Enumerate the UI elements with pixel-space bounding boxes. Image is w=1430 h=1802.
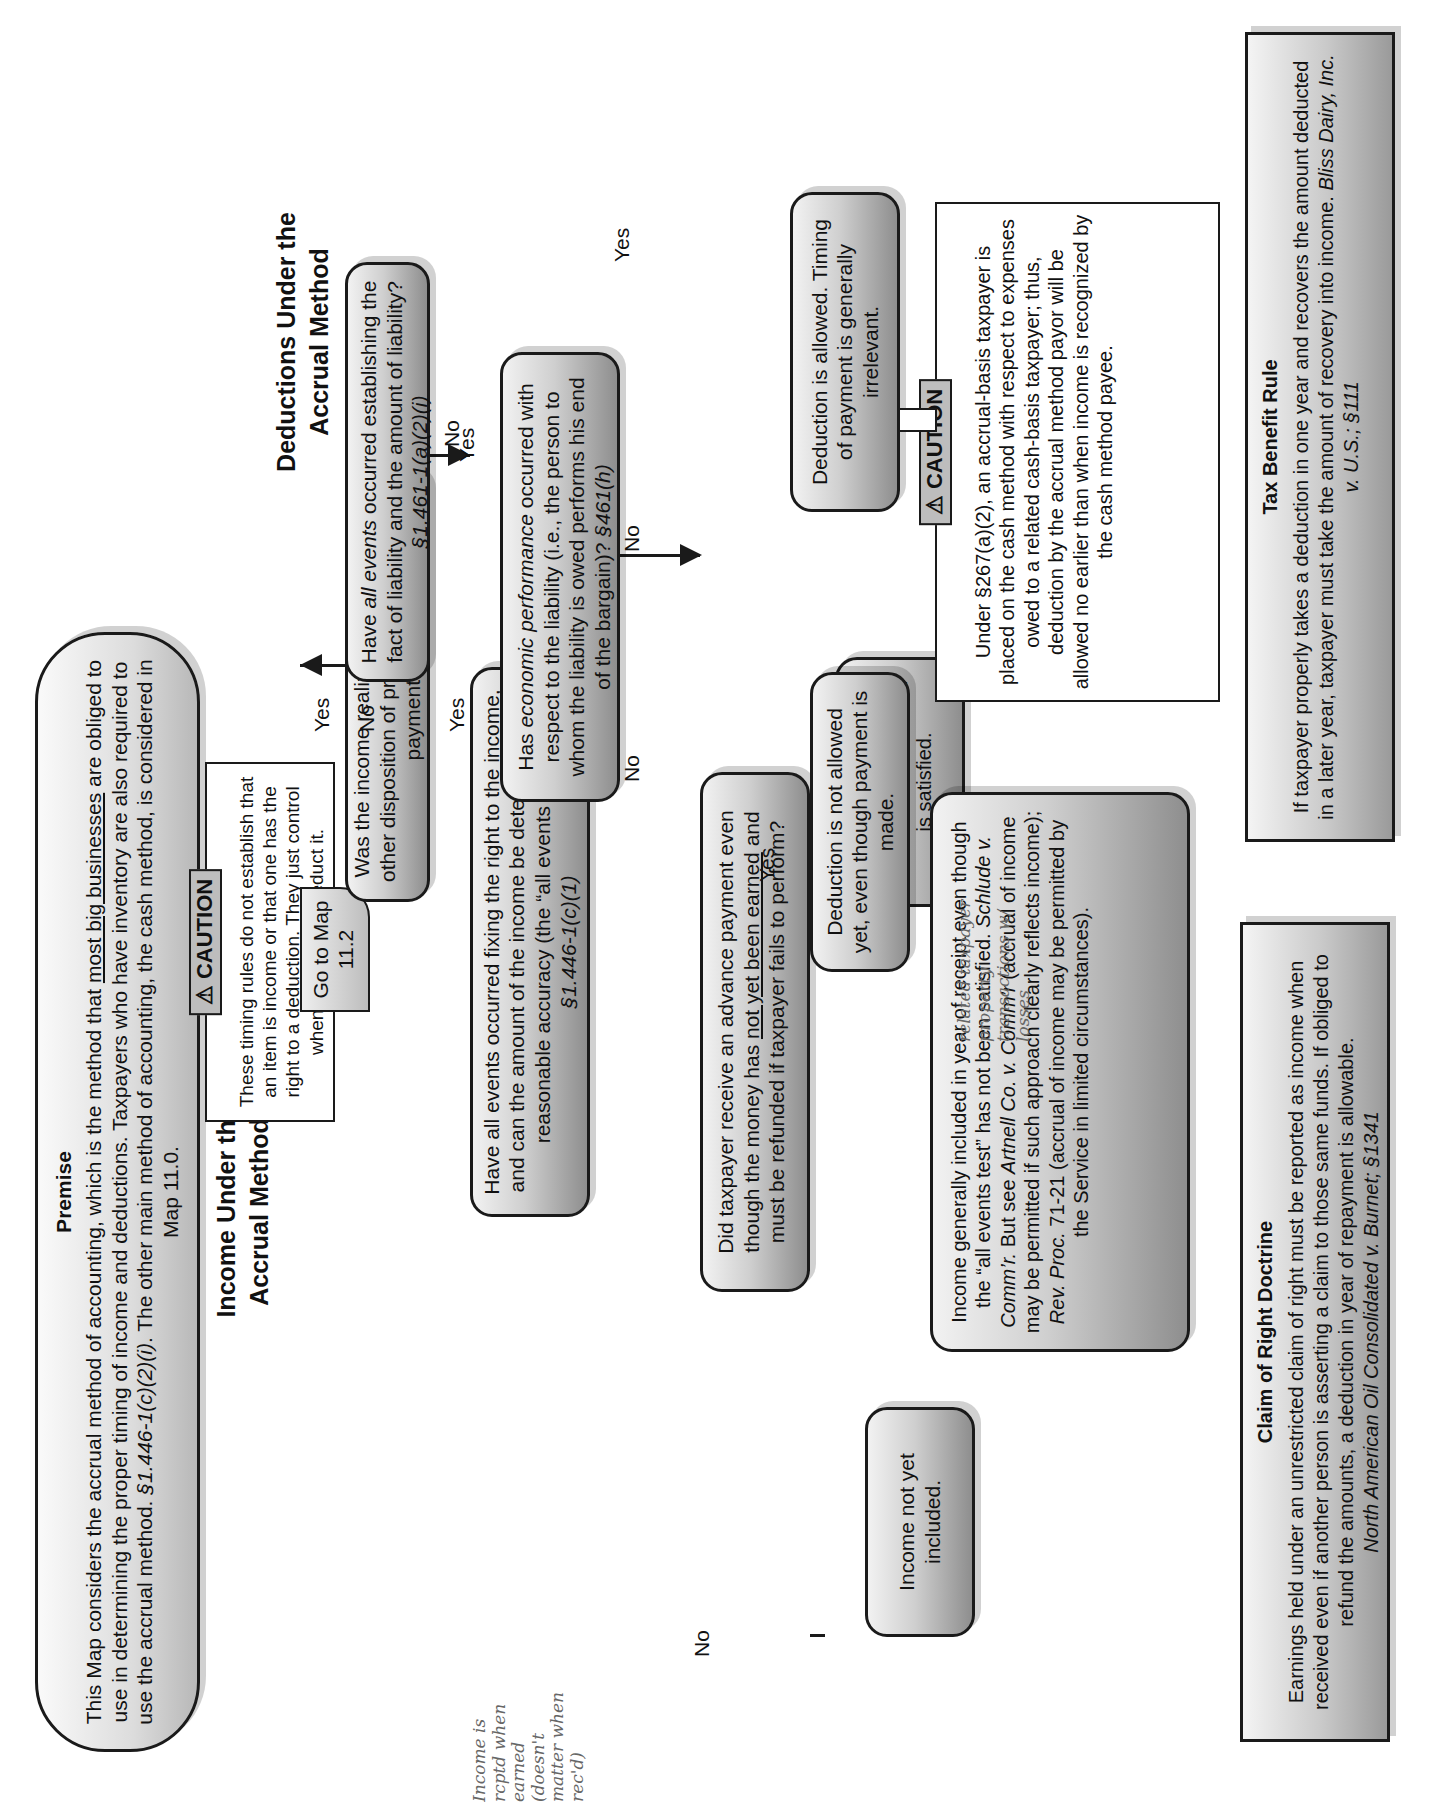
premise-line3a: method. — [133, 1495, 156, 1577]
tax-benefit-panel: Tax Benefit Rule If taxpayer properly ta… — [1245, 32, 1395, 842]
handwritten-note-income: Income is rcptd when earned (doesn't mat… — [470, 1672, 587, 1802]
d-q2-no: No — [620, 755, 644, 782]
premise-cite: §1.446-1(c)(2)(i) — [133, 1343, 156, 1495]
rotated-page: Premise This Map considers the accrual m… — [0, 0, 1430, 1802]
income-q2-no: No — [620, 525, 644, 552]
caution-267-tag: ⚠ CAUTION — [919, 379, 952, 525]
claim-of-right-panel: Claim of Right Doctrine Earnings held un… — [1240, 922, 1390, 1742]
goto-map-link[interactable]: Go to Map 11.2 — [300, 887, 370, 1012]
d-q2-italic: economic performance — [514, 514, 537, 728]
receipt-cite-3: Rev. Proc. — [1046, 1232, 1068, 1324]
caution-tag: ⚠ CAUTION — [189, 869, 222, 1015]
premise-underlined: most big businesses — [82, 793, 105, 983]
deductions-q1-box: Have all events occurred establishing th… — [345, 262, 430, 682]
deduction-not-allowed-result: Deduction is not allowed yet, even thoug… — [810, 672, 910, 972]
receipt-text-4: 71-21 (accrual of income may be permitte… — [1046, 820, 1092, 1237]
d-q1-a: Have — [357, 609, 380, 664]
caution-267-text: Under §267(a)(2), an accrual-basis taxpa… — [972, 215, 1116, 690]
income-q3-no: No — [690, 1630, 714, 1657]
d-q2-a: Has — [514, 728, 537, 771]
income-q3-yes: Yes — [755, 848, 779, 882]
deduction-allowed-result: Deduction is allowed. Timing of payment … — [790, 192, 900, 512]
premise-box: Premise This Map considers the accrual m… — [35, 632, 200, 1752]
claim-of-right-title: Claim of Right Doctrine — [1253, 941, 1278, 1723]
premise-line1a: This Map considers the accrual method of… — [82, 983, 105, 1724]
caution-267-box: ⚠ CAUTION Under §267(a)(2), an accrual-b… — [935, 202, 1220, 702]
d-q2-cite: §461(h) — [591, 464, 614, 536]
deductions-q2-box: Has economic performance occurred with r… — [500, 352, 620, 802]
d-q2-yes: Yes — [610, 228, 634, 262]
premise-line3b: . The other main method of accounting, t… — [133, 659, 182, 1343]
income-not-included-result: Income not yet included. — [865, 1407, 975, 1637]
receipt-text-2: But see — [997, 1174, 1019, 1253]
income-q2-yes: Yes — [445, 698, 469, 732]
d-q1-yes: Yes — [455, 428, 479, 462]
premise-title: Premise — [51, 1151, 77, 1233]
income-heading: Income Under the Accrual Method — [210, 1092, 275, 1332]
claim-of-right-text: Earnings held under an unrestricted clai… — [1284, 941, 1359, 1723]
income-q1-yes: Yes — [310, 698, 334, 732]
hollow-arrow-icon — [900, 408, 937, 432]
deductions-heading: Deductions Under the Accrual Method — [270, 182, 335, 502]
tax-benefit-title: Tax Benefit Rule — [1258, 51, 1283, 823]
income-q2-cite: §1.446-1(c)(1) — [556, 875, 582, 1008]
d-q1-cite: §1.461-1(a)(2)(i) — [408, 396, 431, 549]
premise-text: This Map considers the accrual method of… — [81, 649, 183, 1735]
income-receipt-result: Income generally included in year of rec… — [930, 792, 1190, 1352]
handwritten-note-related: related taxpayer property transactions w… — [955, 892, 1033, 1042]
d-q1-italic: all events — [357, 520, 380, 609]
d-q1-no: No — [355, 705, 379, 732]
claim-of-right-cite: North American Oil Consolidated v. Burne… — [1360, 1111, 1382, 1552]
